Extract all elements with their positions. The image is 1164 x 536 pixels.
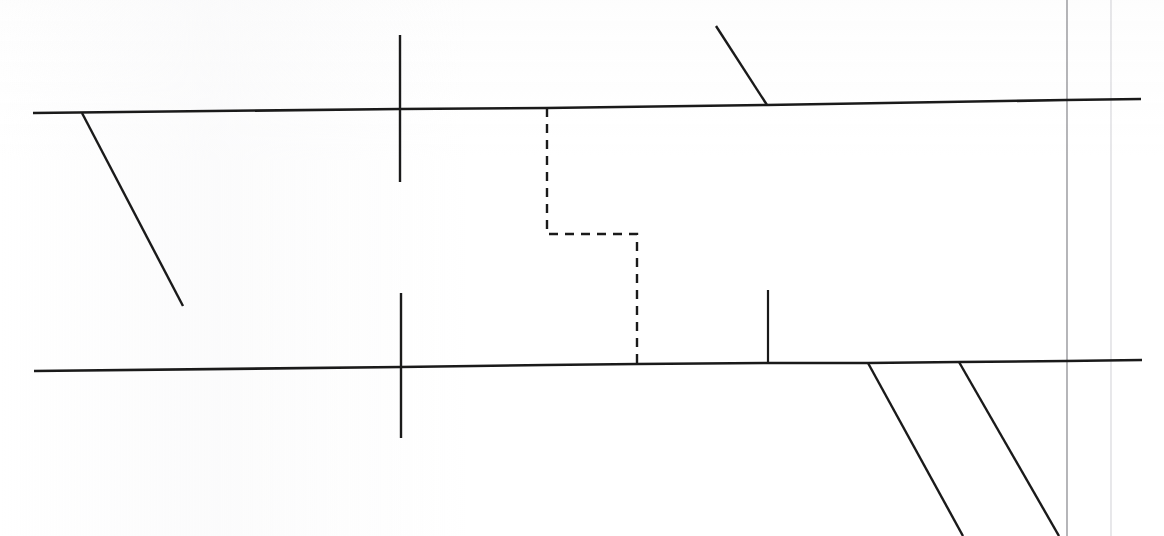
paper-background [0, 0, 1164, 536]
line-drawing-svg [0, 0, 1164, 536]
drawing-canvas [0, 0, 1164, 536]
